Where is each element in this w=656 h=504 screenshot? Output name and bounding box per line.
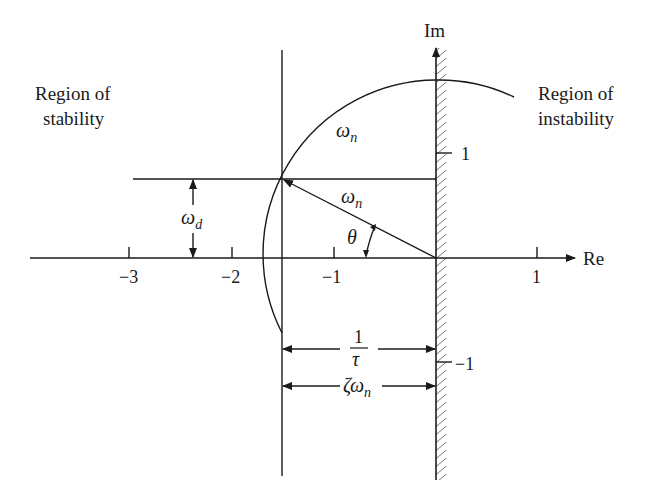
tick-label-pos1: 1 (532, 267, 541, 287)
s-plane-diagram: Re Im −3 −2 −1 1 1 −1 ωd θ ωn ωn 1 τ (0, 0, 656, 504)
omega-d-label: ωd (181, 206, 203, 232)
tick-label-neg3: −3 (119, 267, 138, 287)
real-ticks (129, 247, 537, 258)
tau-numerator: 1 (354, 327, 363, 347)
instability-region-label-line1: Region of (538, 83, 614, 104)
instability-region-label-line2: instability (538, 108, 615, 129)
tick-label-neg1: −1 (322, 267, 341, 287)
instability-hatch (436, 48, 446, 480)
real-axis-label: Re (583, 248, 604, 269)
stability-region-label-line1: Region of (35, 83, 111, 104)
omega-n-arc (263, 80, 514, 333)
tick-label-neg2: −2 (221, 267, 240, 287)
omega-n-label-vector: ωn (341, 185, 362, 211)
imag-tick-label-neg1: −1 (455, 354, 474, 374)
imag-axis-label: Im (424, 20, 445, 41)
omega-n-label-arc: ωn (336, 119, 357, 145)
imag-tick-label-pos1: 1 (461, 144, 470, 164)
omega-n-vector (284, 180, 436, 258)
zeta-omega-n-label: ζωn (343, 374, 371, 400)
theta-arrowhead-down (363, 250, 369, 258)
stability-region-label-line2: stability (43, 108, 105, 129)
theta-label: θ (347, 226, 357, 248)
tau-denominator: τ (352, 348, 360, 370)
